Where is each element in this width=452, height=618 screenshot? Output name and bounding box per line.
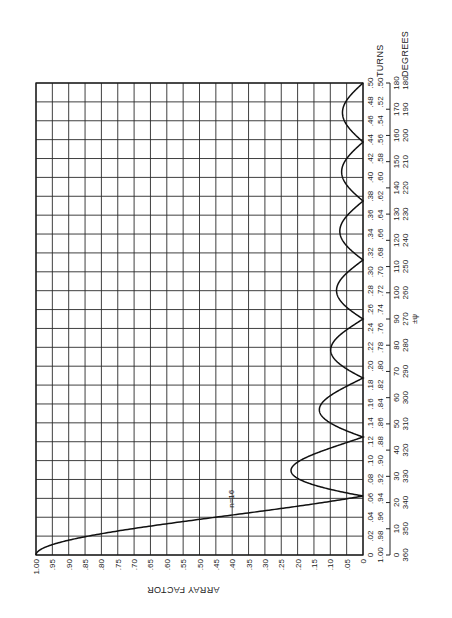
turns-complement-tick-label: .52: [376, 96, 385, 108]
y-tick-label: .50: [196, 558, 205, 570]
turns-complement-tick-label: .62: [376, 190, 385, 202]
y-tick-label: .95: [48, 558, 57, 570]
y-tick-label: .80: [97, 558, 106, 570]
degrees-complement-tick-label: 240: [401, 233, 410, 247]
degrees-tick-label: 110: [392, 260, 401, 273]
degrees-complement-tick-label: 250: [401, 259, 410, 273]
y-tick-label: .05: [343, 558, 352, 570]
turns-tick-label: .48: [366, 96, 375, 108]
turns-complement-tick-label: .96: [376, 511, 385, 523]
degrees-tick-label: 70: [392, 366, 401, 375]
y-tick-label: .45: [212, 558, 221, 570]
degrees-complement-tick-label: 190: [401, 102, 410, 116]
degrees-complement-tick-label: 310: [401, 417, 410, 431]
turns-complement-tick-label: .66: [376, 228, 385, 240]
degrees-tick-label: 10: [392, 524, 401, 533]
degrees-tick-label: 30: [392, 471, 401, 480]
turns-tick-label: .14: [366, 417, 375, 429]
turns-tick-label: .20: [366, 360, 375, 372]
turns-tick-label: .50: [366, 77, 375, 89]
turns-tick-label: .34: [366, 228, 375, 240]
degrees-tick-label: 60: [392, 393, 401, 402]
degrees-complement-tick-label: 330: [401, 469, 410, 483]
turns-complement-tick-label: .70: [376, 266, 385, 278]
degrees-complement-tick-label: 220: [401, 181, 410, 195]
turns-complement-tick-label: 1.00: [376, 547, 385, 563]
x-axis-degrees: 0360103502034030330403205031060300702908…: [386, 76, 410, 562]
turns-tick-label: .22: [366, 341, 375, 353]
turns-tick-label: .16: [366, 398, 375, 410]
degrees-tick-label: 20: [392, 498, 401, 507]
degrees-tick-label: 140: [392, 181, 401, 195]
turns-complement-tick-label: .84: [376, 398, 385, 410]
y-tick-label: .85: [81, 558, 90, 570]
turns-complement-tick-label: .90: [376, 454, 385, 466]
y-tick-label: .20: [294, 558, 303, 570]
degrees-tick-label: 80: [392, 340, 401, 349]
y-tick-label: 0: [359, 558, 368, 563]
turns-tick-label: .26: [366, 303, 375, 315]
turns-complement-tick-label: .50: [376, 77, 385, 89]
degrees-tick-label: 130: [392, 207, 401, 221]
turns-complement-tick-label: .68: [376, 247, 385, 259]
y-tick-label: .55: [179, 558, 188, 570]
degrees-complement-tick-label: 260: [401, 286, 410, 300]
turns-tick-label: .42: [366, 152, 375, 164]
y-axis-title: ARRAY FACTOR: [147, 585, 220, 595]
degrees-tick-label: 160: [392, 128, 401, 142]
turns-complement-tick-label: .82: [376, 379, 385, 391]
turns-complement-tick-label: .56: [376, 134, 385, 146]
turns-complement-tick-label: .72: [376, 285, 385, 297]
turns-tick-label: .02: [366, 530, 375, 542]
x-axis-title-turns: TURNS: [375, 45, 385, 78]
series-label-n16: n=16: [227, 489, 236, 508]
turns-complement-tick-label: .88: [376, 436, 385, 448]
y-tick-label: .15: [310, 558, 319, 570]
turns-tick-label: .08: [366, 473, 375, 485]
y-tick-label: .35: [245, 558, 254, 570]
y-axis-ticks: 1.00.95.90.85.80.75.70.65.60.55.50.45.40…: [32, 558, 368, 574]
turns-complement-tick-label: .80: [376, 360, 385, 372]
turns-complement-tick-label: .92: [376, 473, 385, 485]
turns-tick-label: .38: [366, 190, 375, 202]
y-tick-label: .75: [114, 558, 123, 570]
turns-complement-tick-label: .60: [376, 171, 385, 183]
y-tick-label: .30: [261, 558, 270, 570]
turns-complement-tick-label: .78: [376, 341, 385, 353]
degrees-complement-tick-label: 360: [401, 548, 410, 562]
y-tick-label: .25: [277, 558, 286, 570]
y-tick-label: .65: [146, 558, 155, 570]
turns-tick-label: .28: [366, 285, 375, 297]
turns-tick-label: .40: [366, 171, 375, 183]
degrees-complement-tick-label: 290: [401, 364, 410, 378]
degrees-complement-tick-label: 230: [401, 207, 410, 221]
y-tick-label: .90: [65, 558, 74, 570]
turns-complement-tick-label: .74: [376, 303, 385, 315]
turns-tick-label: .12: [366, 436, 375, 448]
degrees-tick-label: 90: [392, 314, 401, 323]
turns-tick-label: 0: [366, 552, 375, 557]
y-tick-label: .10: [326, 558, 335, 570]
turns-tick-label: .18: [366, 379, 375, 391]
degrees-complement-tick-label: 300: [401, 390, 410, 404]
turns-tick-label: .30: [366, 266, 375, 278]
array-factor-chart: n=16 1.00.95.90.85.80.75.70.65.60.55.50.…: [0, 0, 452, 618]
turns-tick-label: .36: [366, 209, 375, 221]
turns-tick-label: .46: [366, 115, 375, 127]
degrees-complement-tick-label: 340: [401, 495, 410, 509]
degrees-complement-tick-label: 200: [401, 128, 410, 142]
x-axis-ticks-turns: 01.00.02.98.04.96.06.94.08.92.10.90.12.8…: [366, 77, 385, 563]
degrees-complement-tick-label: 280: [401, 338, 410, 352]
degrees-tick-label: 50: [392, 419, 401, 428]
turns-complement-tick-label: .76: [376, 322, 385, 334]
y-tick-label: 1.00: [32, 558, 41, 574]
turns-tick-label: .06: [366, 492, 375, 504]
turns-complement-tick-label: .94: [376, 492, 385, 504]
turns-complement-tick-label: .86: [376, 417, 385, 429]
y-tick-label: .40: [228, 558, 237, 570]
turns-tick-label: .10: [366, 454, 375, 466]
degrees-tick-label: 0: [392, 552, 401, 557]
degrees-tick-label: 170: [392, 102, 401, 116]
turns-tick-label: .32: [366, 247, 375, 259]
x-axis-title-degrees: DEGREES: [400, 31, 410, 77]
